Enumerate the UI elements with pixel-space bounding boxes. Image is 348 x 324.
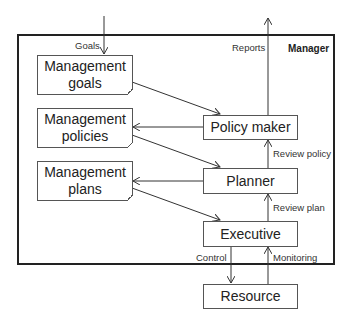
doc-label: Management plans	[38, 164, 132, 198]
review-plan-edge-label: Review plan	[273, 202, 325, 213]
doc-label: Management goals	[38, 58, 132, 92]
process-label: Policy maker	[210, 119, 290, 136]
resource-box: Resource	[203, 284, 298, 309]
control-edge-label: Control	[196, 252, 227, 263]
management-plans-doc: Management plans	[37, 161, 133, 201]
monitoring-edge-label: Monitoring	[273, 252, 317, 263]
doc-label: Management policies	[38, 111, 132, 145]
goals-edge-label: Goals	[75, 40, 100, 51]
manager-frame-label: Manager	[288, 43, 329, 54]
process-label: Executive	[220, 226, 281, 243]
policy-maker-box: Policy maker	[203, 115, 298, 140]
process-label: Resource	[221, 288, 281, 305]
management-goals-doc: Management goals	[37, 55, 133, 95]
planner-box: Planner	[203, 168, 298, 194]
executive-box: Executive	[203, 221, 298, 247]
reports-edge-label: Reports	[232, 42, 265, 53]
process-label: Planner	[226, 173, 274, 190]
management-policies-doc: Management policies	[37, 108, 133, 148]
review-policy-edge-label: Review policy	[273, 148, 331, 159]
